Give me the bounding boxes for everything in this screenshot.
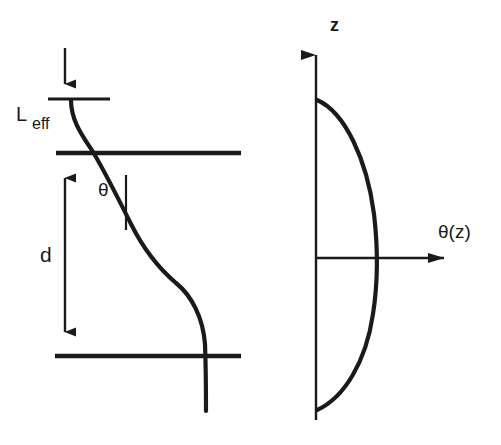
label-L-effective-main: L: [16, 104, 27, 124]
figure-root: L eff d θ z θ(z): [0, 0, 501, 445]
label-tilt-angle: θ: [98, 180, 109, 199]
right-panel-group: [316, 55, 444, 420]
theta-profile-curve: [317, 100, 377, 410]
left-panel-group: [48, 48, 241, 411]
label-cell-thickness: d: [40, 244, 52, 265]
label-L-effective-subscript: eff: [32, 116, 50, 132]
director-curve: [71, 100, 206, 411]
figure-canvas: [0, 0, 501, 445]
label-theta-axis: θ(z): [438, 222, 471, 241]
label-z-axis: z: [330, 16, 339, 34]
